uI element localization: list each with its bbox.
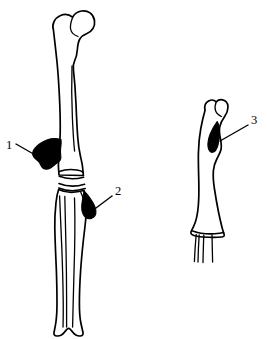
leader-line-2 [96, 196, 112, 208]
anatomical-figure: 1 2 3 [0, 0, 267, 339]
bone-humerus [191, 100, 228, 263]
joint-line-upper [59, 176, 83, 178]
bone-tibia-fibula [54, 190, 87, 337]
humerus-distal-line-3 [212, 235, 213, 262]
joint-line-middle [59, 184, 85, 187]
lesion-tibia-proximal-lateral [82, 191, 96, 219]
leader-line-3 [220, 125, 248, 141]
label-3: 3 [251, 113, 257, 127]
humerus-outline [191, 100, 228, 238]
knee-joint [59, 176, 85, 190]
joint-line-lower [59, 188, 85, 191]
label-1: 1 [6, 138, 12, 152]
callout-1: 1 [6, 138, 37, 156]
label-2: 2 [115, 184, 121, 198]
callout-3: 3 [220, 113, 257, 141]
humerus-distal-line-2 [203, 235, 204, 262]
bone-diagram-canvas: 1 2 3 [0, 0, 267, 339]
callout-2: 2 [96, 184, 121, 208]
humerus-distal-line-1 [194, 235, 196, 262]
lesion-femur-medial-distal [33, 138, 62, 169]
tibia-fibula-outline [54, 190, 87, 337]
humerus-distal-line-4 [198, 235, 199, 262]
